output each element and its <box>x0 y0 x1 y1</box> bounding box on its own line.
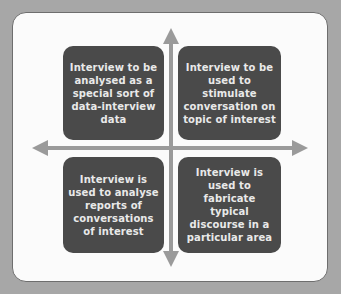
arrow-left-icon <box>32 140 48 156</box>
axes-arrows <box>0 0 341 294</box>
quadrant-top-right-text: Interview to be used to stimulate conver… <box>183 61 276 126</box>
arrow-right-icon <box>292 140 308 156</box>
arrow-up-icon <box>163 28 179 44</box>
quadrant-bottom-left-text: Interview is used to analyse reports of … <box>68 173 159 238</box>
quadrant-top-right: Interview to be used to stimulate conver… <box>178 46 281 140</box>
quadrant-top-left: Interview to be analysed as a special so… <box>63 46 164 140</box>
arrow-down-icon <box>163 251 179 267</box>
horizontal-axis-line <box>44 146 296 150</box>
quadrant-top-left-text: Interview to be analysed as a special so… <box>68 61 159 126</box>
quadrant-bottom-right: Interview is used to fabricate typical d… <box>178 157 281 253</box>
quadrant-bottom-left: Interview is used to analyse reports of … <box>63 157 164 253</box>
quadrant-bottom-right-text: Interview is used to fabricate typical d… <box>183 166 276 244</box>
